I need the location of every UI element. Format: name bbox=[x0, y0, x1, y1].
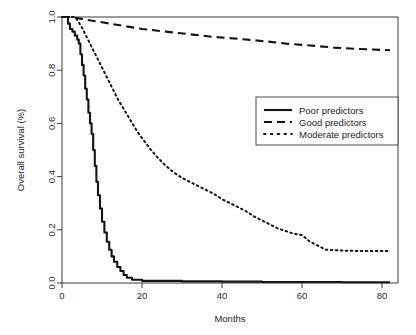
y-tick-label: 0.0 bbox=[46, 276, 57, 289]
survival-chart: 0.00.20.40.60.81.0 020406080 Overall sur… bbox=[0, 0, 416, 335]
kaplan-meier-plot: 0.00.20.40.60.81.0 020406080 Overall sur… bbox=[0, 0, 416, 335]
x-axis-title: Months bbox=[214, 313, 245, 324]
x-tick-label: 60 bbox=[297, 290, 308, 301]
y-tick-label: 0.4 bbox=[46, 170, 57, 183]
x-tick-label: 40 bbox=[217, 290, 228, 301]
x-tick-label: 0 bbox=[59, 290, 64, 301]
x-tick-label: 20 bbox=[137, 290, 148, 301]
y-axis-title: Overall survival (%) bbox=[15, 109, 26, 191]
legend-label-good: Good predictors bbox=[299, 117, 367, 128]
x-tick-label: 80 bbox=[377, 290, 388, 301]
legend-label-poor: Poor predictors bbox=[299, 105, 364, 116]
legend-label-moderate: Moderate predictors bbox=[299, 129, 384, 140]
y-tick-label: 1.0 bbox=[46, 10, 57, 23]
y-tick-label: 0.8 bbox=[46, 64, 57, 77]
chart-legend: Poor predictors Good predictors Moderate… bbox=[256, 97, 398, 145]
y-tick-label: 0.2 bbox=[46, 223, 57, 236]
y-tick-label: 0.6 bbox=[46, 117, 57, 130]
